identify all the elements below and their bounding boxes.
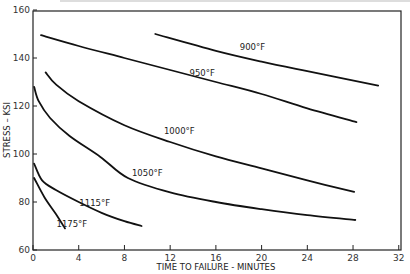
series-label: 1175°F (56, 219, 87, 229)
series-line-950f (41, 35, 357, 122)
series-label: 1000°F (164, 126, 195, 136)
y-tick-label: 160 (13, 5, 30, 15)
series-label: 950°F (189, 68, 214, 78)
series-line-1000f (46, 72, 355, 191)
y-tick-label: 140 (13, 53, 30, 63)
y-tick-label: 120 (13, 101, 30, 111)
x-tick-label: 32 (393, 253, 404, 263)
x-tick-label: 28 (347, 253, 359, 263)
x-axis: 048121620242832 (30, 245, 404, 263)
x-tick-label: 0 (30, 253, 36, 263)
plot-frame (33, 11, 401, 250)
series-line-1115f (34, 164, 142, 226)
clipped-caption-remnant (60, 0, 410, 2)
x-tick-label: 4 (76, 253, 82, 263)
y-tick-label: 60 (19, 245, 31, 255)
series-labels: 900°F950°F1000°F1050°F1115°F1175°F (56, 42, 265, 230)
x-tick-label: 24 (302, 253, 314, 263)
x-axis-title: TIME TO FAILURE - MINUTES (156, 262, 276, 272)
series-label: 900°F (240, 42, 265, 52)
series-label: 1115°F (79, 198, 110, 208)
stress-rupture-chart: 6080100120140160 048121620242832 TIME TO… (0, 0, 410, 274)
y-tick-label: 80 (19, 197, 31, 207)
x-tick-label: 8 (122, 253, 128, 263)
y-tick-label: 100 (13, 149, 30, 159)
y-axis-title: STRESS – KSI (2, 102, 12, 158)
series-label: 1050°F (132, 168, 163, 178)
